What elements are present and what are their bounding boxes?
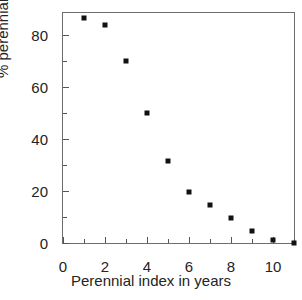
y-axis-tick-label: 0 [40,236,48,251]
x-axis-minor-tick [210,239,211,243]
data-point [271,238,276,243]
data-point [229,216,234,221]
y-axis-minor-tick [63,217,67,218]
y-axis-minor-tick [63,61,67,62]
y-axis-tick [63,35,69,36]
y-axis-tick-label: 60 [31,80,48,95]
y-axis-tick [63,87,69,88]
x-axis-minor-tick [252,239,253,243]
y-axis-minor-tick [63,165,67,166]
x-axis-minor-tick [84,239,85,243]
y-axis-tick-label: 40 [31,132,48,147]
data-point [166,159,171,164]
x-axis-title: Perennial index in years [0,272,302,289]
x-axis-tick [63,237,64,243]
plot-area: 0204060800246810 [62,12,295,244]
data-point [292,241,297,246]
y-axis-tick [63,243,69,244]
data-point [124,59,129,64]
x-axis-tick [147,237,148,243]
data-point [250,229,255,234]
y-axis-tick-label: 80 [31,28,48,43]
y-axis-title: % perennials [0,0,11,78]
data-point [82,16,87,21]
data-point [103,22,108,27]
y-axis-tick-label: 20 [31,184,48,199]
y-axis-minor-tick [63,113,67,114]
x-axis-tick [189,237,190,243]
y-axis-tick [63,191,69,192]
data-point [208,203,213,208]
x-axis-tick [105,237,106,243]
data-point [145,111,150,116]
x-axis-tick [231,237,232,243]
x-axis-minor-tick [126,239,127,243]
x-axis-minor-tick [168,239,169,243]
data-point [187,190,192,195]
y-axis-tick [63,139,69,140]
scatter-plot-figure: 0204060800246810 % perennials Perennial … [0,0,302,300]
